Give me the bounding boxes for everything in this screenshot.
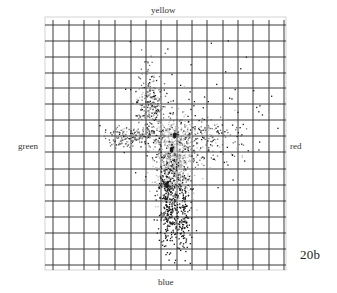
axis-label-yellow: yellow bbox=[151, 5, 176, 15]
scatter-plot bbox=[0, 0, 337, 293]
axis-label-blue: blue bbox=[158, 277, 174, 287]
figure-id: 20b bbox=[300, 247, 320, 263]
axis-label-green: green bbox=[18, 141, 38, 151]
axis-label-red: red bbox=[290, 141, 302, 151]
